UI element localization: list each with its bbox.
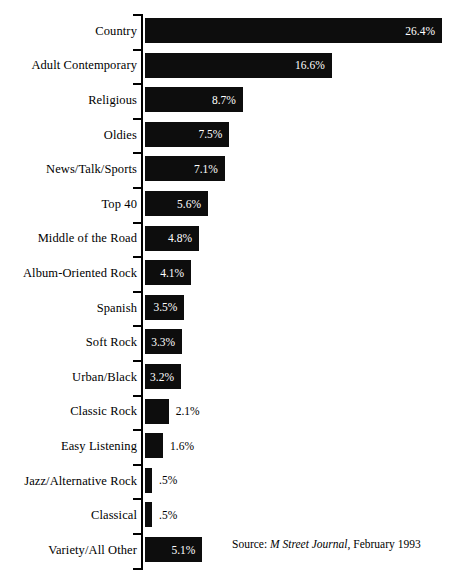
bar-value-label: 7.1% [194, 156, 218, 181]
category-label: Classical [91, 498, 137, 533]
bar-value-label: 3.2% [150, 364, 174, 389]
bar [145, 502, 152, 527]
axis-tick [133, 498, 142, 500]
bar: 3.2% [145, 364, 181, 389]
category-label: Urban/Black [72, 360, 137, 395]
category-label: Album-Oriented Rock [23, 256, 137, 291]
bar-value-label: 5.6% [177, 191, 201, 216]
category-label: Easy Listening [61, 429, 137, 464]
source-suffix: , February 1993 [348, 538, 421, 550]
bar: 4.1% [145, 260, 191, 285]
axis-tick [133, 49, 142, 51]
axis-tick [133, 83, 142, 85]
bar: 8.7% [145, 87, 243, 112]
bar-row: Urban/Black3.2% [0, 360, 458, 395]
axis-tick-end [133, 568, 142, 570]
bar-value-label: 3.5% [153, 295, 177, 320]
bar-row: Album-Oriented Rock4.1% [0, 256, 458, 291]
axis-tick [133, 152, 142, 154]
category-label: Classic Rock [70, 395, 137, 430]
bar-value-label: 16.6% [295, 53, 325, 78]
bar: 5.6% [145, 191, 208, 216]
bar-value-label: 2.1% [176, 399, 200, 424]
axis-tick [133, 360, 142, 362]
axis-tick [133, 256, 142, 258]
axis-tick [133, 187, 142, 189]
bar: 4.8% [145, 226, 199, 251]
source-note: Source: M Street Journal, February 1993 [232, 538, 421, 550]
bar-value-label: 26.4% [405, 18, 435, 43]
category-label: Top 40 [102, 187, 138, 222]
category-label: Soft Rock [86, 325, 137, 360]
bar-value-label: 8.7% [212, 87, 236, 112]
category-label: Country [95, 14, 137, 49]
bar [145, 468, 152, 493]
bar: 7.1% [145, 156, 225, 181]
category-label: Variety/All Other [48, 533, 137, 568]
bar-row: Jazz/Alternative Rock.5% [0, 464, 458, 499]
chart-plot-area: Country26.4%Adult Contemporary16.6%Relig… [0, 0, 458, 585]
bar: 7.5% [145, 122, 229, 147]
bar-row: Classic Rock2.1% [0, 395, 458, 430]
bar-row: Country26.4% [0, 14, 458, 49]
source-publication: M Street Journal [270, 538, 348, 550]
bar-row: Top 405.6% [0, 187, 458, 222]
category-label: Adult Contemporary [31, 49, 137, 84]
radio-format-share-chart: Country26.4%Adult Contemporary16.6%Relig… [0, 0, 458, 585]
bar-value-label: 7.5% [198, 122, 222, 147]
bar-value-label: 1.6% [170, 433, 194, 458]
bar-value-label: 4.1% [160, 260, 184, 285]
bar [145, 399, 169, 424]
bar: 3.5% [145, 295, 184, 320]
axis-tick [133, 464, 142, 466]
axis-tick [133, 533, 142, 535]
bar-row: Easy Listening1.6% [0, 429, 458, 464]
axis-tick [133, 14, 142, 16]
category-label: News/Talk/Sports [46, 152, 137, 187]
bar-row: Soft Rock3.3% [0, 325, 458, 360]
bar: 3.3% [145, 329, 182, 354]
bar: 5.1% [145, 537, 202, 562]
bar-row: Religious8.7% [0, 83, 458, 118]
bar: 26.4% [145, 18, 442, 43]
bar-row: Middle of the Road4.8% [0, 222, 458, 257]
category-label: Spanish [97, 291, 137, 326]
bar-row: Oldies7.5% [0, 118, 458, 153]
bar [145, 433, 163, 458]
category-label: Oldies [104, 118, 137, 153]
category-label: Middle of the Road [38, 222, 137, 257]
axis-tick [133, 325, 142, 327]
axis-tick [133, 429, 142, 431]
bar: 16.6% [145, 53, 332, 78]
bar-value-label: 3.3% [151, 329, 175, 354]
bar-row: Spanish3.5% [0, 291, 458, 326]
bar-value-label: 5.1% [171, 537, 195, 562]
category-label: Religious [88, 83, 137, 118]
category-label: Jazz/Alternative Rock [24, 464, 137, 499]
bar-value-label: 4.8% [168, 226, 192, 251]
axis-tick [133, 395, 142, 397]
axis-tick [133, 118, 142, 120]
bar-value-label: .5% [159, 468, 177, 493]
source-prefix: Source: [232, 538, 267, 550]
bar-row: Adult Contemporary16.6% [0, 49, 458, 84]
axis-tick [133, 222, 142, 224]
axis-tick [133, 291, 142, 293]
bar-row: Classical.5% [0, 498, 458, 533]
bar-row: News/Talk/Sports7.1% [0, 152, 458, 187]
bar-value-label: .5% [159, 502, 177, 527]
